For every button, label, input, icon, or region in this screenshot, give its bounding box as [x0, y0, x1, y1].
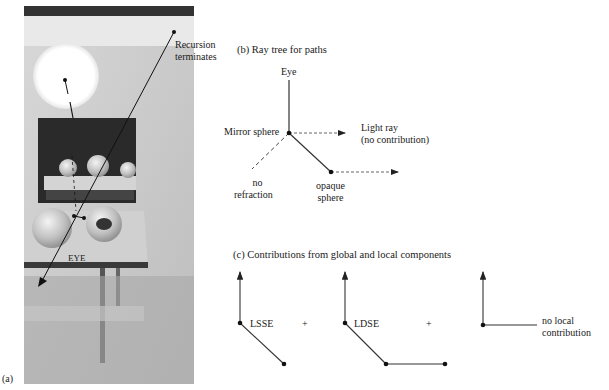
mirror-sphere-label: Mirror sphere — [224, 126, 279, 138]
plus-operator-1: + — [302, 318, 308, 330]
eye-node-label: Eye — [281, 66, 297, 78]
light-ray-label: Light ray (no contribution) — [361, 122, 429, 146]
no-refraction-label: no refraction — [234, 177, 273, 201]
term-ldse-label: LDSE — [354, 318, 379, 330]
term-lsse-label: LSSE — [250, 318, 273, 330]
opaque-sphere-label: opaque sphere — [316, 180, 345, 204]
no-local-contribution-label: no local contribution — [542, 315, 591, 339]
ray-tree-diagram — [0, 0, 609, 390]
panel-c-lines — [238, 272, 537, 366]
panel-c-title: (c) Contributions from global and local … — [233, 249, 451, 261]
plus-operator-2: + — [426, 318, 432, 330]
panel-b-title: (b) Ray tree for paths — [237, 44, 327, 56]
